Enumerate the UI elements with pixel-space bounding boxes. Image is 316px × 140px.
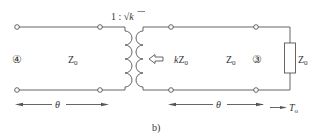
terminal-icon <box>169 88 174 93</box>
port-3-label: ③ <box>252 53 262 65</box>
primary-coil-icon <box>125 31 132 87</box>
load-impedance-label: Z0 <box>298 54 308 67</box>
terminal-icon <box>15 25 20 30</box>
left-line-impedance-label: Z0 <box>68 54 78 67</box>
terminal-icon <box>15 88 20 93</box>
hollow-arrow-left-icon <box>149 55 163 64</box>
referred-impedance-label: kZ0 <box>174 54 189 67</box>
transmission-line-diagram: 1 : √k ④ Z0 kZ0 Z0 ③ Z0 θ θ To b) <box>0 0 316 140</box>
terminal-icon <box>254 25 259 30</box>
terminal-icon <box>169 25 174 30</box>
terminal-icon <box>254 88 259 93</box>
left-length-label: θ <box>55 99 60 110</box>
figure-caption: b) <box>152 122 160 134</box>
reference-plane-label: To <box>289 102 299 115</box>
right-length-label: θ <box>216 99 221 110</box>
arrowhead-left-icon <box>168 103 176 106</box>
arrowhead-right-icon <box>101 103 109 106</box>
terminal-icon <box>98 88 103 93</box>
secondary-coil-icon <box>136 31 143 87</box>
arrowhead-right-icon <box>256 103 264 106</box>
reference-arrow-icon <box>280 106 287 109</box>
terminal-icon <box>98 25 103 30</box>
transformer-ratio-label: 1 : √k <box>111 11 134 22</box>
load-resistor-icon <box>285 43 296 73</box>
arrowhead-left-icon <box>15 103 23 106</box>
right-line-impedance-label: Z0 <box>226 54 236 67</box>
port-4-label: ④ <box>12 53 22 65</box>
